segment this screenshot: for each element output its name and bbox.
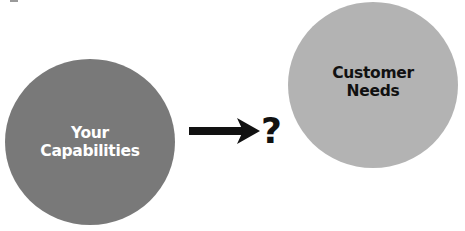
node-customer-needs: Customer Needs: [288, 2, 458, 168]
corner-artifact: [10, 0, 18, 4]
arrow-right-icon: [189, 117, 261, 145]
question-mark: ?: [261, 111, 282, 151]
node-your-capabilities: Your Capabilities: [5, 59, 175, 225]
node-label: Customer Needs: [332, 64, 414, 100]
node-label: Your Capabilities: [40, 124, 139, 160]
node-label-line1: Your: [40, 124, 139, 142]
node-label-line2: Capabilities: [40, 142, 139, 160]
node-label-line1: Customer: [332, 64, 414, 82]
node-label-line2: Needs: [332, 82, 414, 100]
